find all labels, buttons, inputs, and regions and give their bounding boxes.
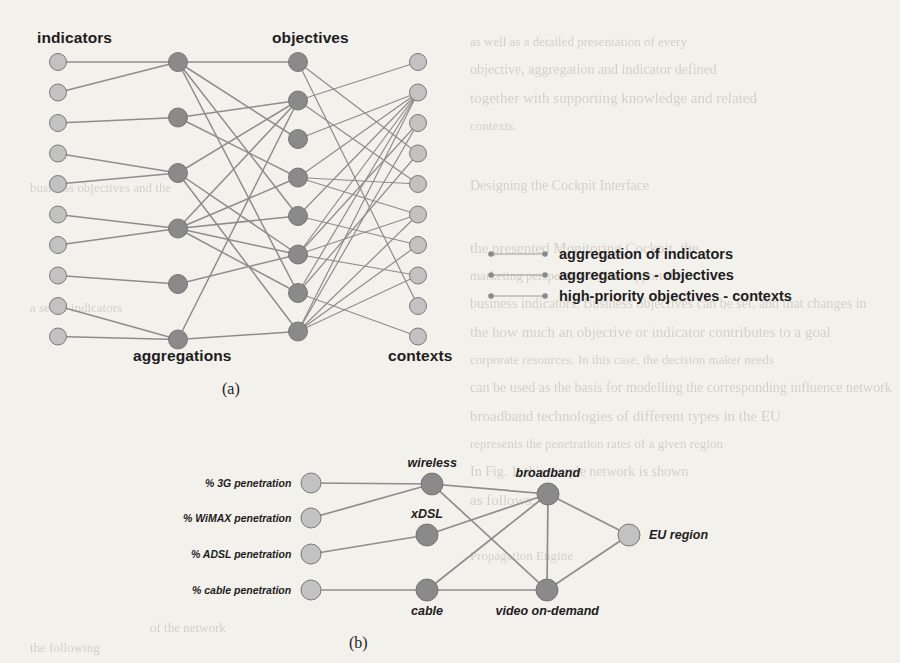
panel-b-label-wimax: % WiMAX penetration xyxy=(183,512,291,524)
edge-adsl-xdsl xyxy=(311,535,427,554)
panel-b-label-vod: video on-demand xyxy=(496,604,599,618)
panel-b-graph xyxy=(0,0,900,663)
panel-b-label-xdsl: xDSL xyxy=(411,507,443,521)
node-cable_pen[interactable] xyxy=(301,580,321,600)
panel-b-label-wireless: wireless xyxy=(408,456,457,470)
node-3g[interactable] xyxy=(301,473,321,493)
edge-3g-wireless xyxy=(311,483,432,484)
edge-xdsl-broadband xyxy=(427,494,548,535)
panel-b-label-adsl: % ADSL penetration xyxy=(191,548,291,560)
node-broadband[interactable] xyxy=(537,483,559,505)
node-xdsl[interactable] xyxy=(416,524,438,546)
node-eu[interactable] xyxy=(618,524,640,546)
node-wireless[interactable] xyxy=(421,473,443,495)
figure-canvas: as well as a detailed presentation of ev… xyxy=(0,0,900,663)
panel-b-label-broadband: broadband xyxy=(516,466,581,480)
node-adsl[interactable] xyxy=(301,544,321,564)
panel-b-caption: (b) xyxy=(349,634,368,652)
edge-vod-eu xyxy=(547,535,629,590)
edge-cable-broadband xyxy=(427,494,548,590)
node-cable[interactable] xyxy=(416,579,438,601)
panel-b-label-3g: % 3G penetration xyxy=(205,477,291,489)
node-vod[interactable] xyxy=(536,579,558,601)
edge-broadband-vod xyxy=(547,494,548,590)
edge-broadband-eu xyxy=(548,494,629,535)
panel-b-label-cable: cable xyxy=(411,604,443,618)
panel-b-label-eu: EU region xyxy=(649,528,708,542)
node-wimax[interactable] xyxy=(301,508,321,528)
edge-wireless-broadband xyxy=(432,484,548,494)
panel-b-label-cable_pen: % cable penetration xyxy=(192,584,291,596)
